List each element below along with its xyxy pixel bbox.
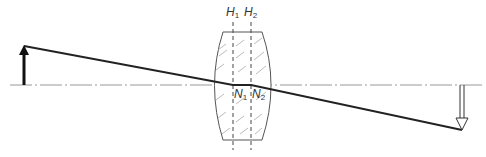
label-h2: H2 — [244, 6, 257, 20]
label-n1: N1 — [234, 88, 247, 102]
label-n2: N2 — [252, 88, 265, 102]
optical-diagram — [0, 0, 486, 157]
label-h1: H1 — [226, 6, 239, 20]
thick-lens — [215, 32, 272, 140]
